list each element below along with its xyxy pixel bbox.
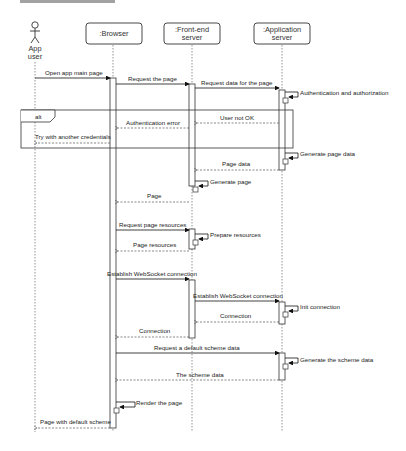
top-cutoff-text — [20, 0, 115, 3]
message-generate-scheme-data: Generate the scheme data — [283, 356, 374, 369]
message-the-scheme-data: The scheme data — [118, 371, 279, 380]
svg-text:Page with default scheme: Page with default scheme — [40, 418, 111, 425]
svg-text:Page resources: Page resources — [133, 241, 176, 248]
message-try-another-credentials: Try with another credentials — [35, 133, 111, 143]
message-request-data-for-page: Request data for the page — [195, 79, 279, 88]
svg-text:Render the page: Render the page — [136, 399, 183, 406]
activation-browser — [110, 78, 116, 428]
svg-text:server: server — [272, 33, 293, 42]
svg-text:Page data: Page data — [222, 160, 251, 167]
message-open-app-main-page: Open app main page — [35, 69, 110, 78]
participant-frontend: :Front-end server — [164, 23, 220, 44]
actor-app-user — [30, 22, 40, 43]
message-establish-websocket-browser: Establish WebSocket connection — [107, 270, 198, 279]
svg-text:Authentication error: Authentication error — [126, 119, 180, 126]
svg-text:Request page resources: Request page resources — [119, 221, 186, 228]
sequence-diagram: App user :Browser :Front-end server :App… — [0, 0, 406, 451]
message-init-connection: Init connection — [283, 303, 340, 317]
participant-browser: :Browser — [86, 23, 142, 44]
message-page: Page — [118, 192, 189, 202]
svg-text:Request a default scheme data: Request a default scheme data — [154, 344, 240, 351]
message-request-default-scheme-data: Request a default scheme data — [116, 344, 279, 353]
message-page-resources: Page resources — [118, 241, 189, 251]
message-generate-page-data: Generate page data — [283, 150, 356, 164]
message-connection-frontend: Connection — [118, 327, 189, 337]
svg-text:Page: Page — [147, 192, 162, 199]
message-connection-appserver: Connection — [197, 312, 279, 322]
svg-text:server: server — [182, 33, 203, 42]
message-establish-websocket-frontend: Establish WebSocket connection — [193, 292, 284, 301]
svg-text::Browser: :Browser — [99, 29, 129, 38]
svg-text:Connection: Connection — [139, 327, 171, 334]
message-render-the-page: Render the page — [114, 399, 183, 413]
message-generate-page: Generate page — [193, 178, 252, 192]
message-authentication-authorization: Authentication and authorization — [283, 89, 389, 103]
actor-label-line2: user — [28, 52, 43, 61]
svg-text:Init connection: Init connection — [300, 303, 340, 310]
message-authentication-error: Authentication error — [118, 119, 189, 128]
svg-text:Request data for the page: Request data for the page — [201, 79, 273, 86]
message-prepare-resources: Prepare resources — [193, 231, 261, 245]
svg-text:Request the page: Request the page — [128, 75, 177, 82]
activation-frontend-2 — [189, 229, 195, 249]
alt-operator: alt — [35, 113, 42, 120]
svg-text:The scheme data: The scheme data — [176, 371, 224, 378]
svg-text:Generate page: Generate page — [210, 178, 252, 185]
participant-appserver: :Application server — [254, 23, 310, 44]
svg-text:Establish WebSocket connection: Establish WebSocket connection — [193, 292, 284, 299]
svg-text:Establish WebSocket connection: Establish WebSocket connection — [107, 270, 198, 277]
message-page-data: Page data — [197, 160, 279, 170]
svg-text:Connection: Connection — [220, 312, 252, 319]
svg-text:Prepare resources: Prepare resources — [210, 231, 261, 238]
svg-text:Generate the scheme data: Generate the scheme data — [300, 356, 374, 363]
activation-frontend-3 — [189, 280, 195, 338]
message-page-with-default-scheme: Page with default scheme — [37, 418, 111, 428]
svg-text:Authentication and authorizati: Authentication and authorization — [300, 89, 389, 96]
svg-text:Try with another credentials: Try with another credentials — [35, 133, 111, 140]
svg-text:Open app main page: Open app main page — [45, 69, 103, 76]
message-user-not-ok: User not OK — [197, 114, 279, 123]
activation-frontend-1 — [189, 84, 195, 186]
message-request-the-page: Request the page — [116, 75, 189, 84]
message-request-page-resources: Request page resources — [116, 221, 189, 230]
svg-text:Generate page data: Generate page data — [300, 150, 356, 157]
svg-text:User not OK: User not OK — [220, 114, 255, 121]
